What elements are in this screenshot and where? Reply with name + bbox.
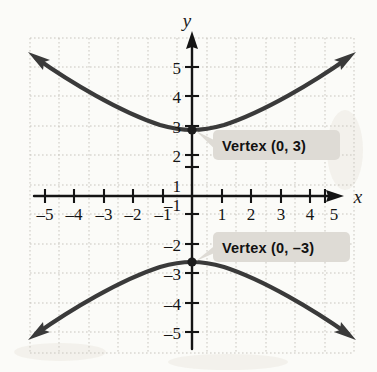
y-tick-label: –5 [163,324,181,343]
y-tick-label: –4 [163,295,182,314]
x-tick-label: –2 [124,205,142,224]
x-tick-label: –4 [65,205,84,224]
x-tick-label: 4 [306,205,315,224]
x-tick-label: 1 [218,205,227,224]
vertex-label-lower: Vertex (0, –3) [222,240,314,256]
x-tick-label: –3 [95,205,113,224]
y-tick-label: 5 [173,59,182,78]
paper-smudge [168,354,288,370]
y-tick-label: –2 [163,236,181,255]
vertex-callout-upper: Vertex (0, 3) [196,130,340,160]
y-axis-label: y [181,10,192,31]
vertex-label-upper: Vertex (0, 3) [222,138,306,154]
y-tick-label: 3 [173,118,182,137]
vertex-marker-upper [187,125,196,134]
coordinate-plane-svg: –5 –4 –3 –2 –1 1 2 3 4 5 5 4 3 2 1 –1 –2… [0,0,377,372]
x-tick-label: 3 [277,205,286,224]
y-tick-label: 2 [173,147,182,166]
paper-smudge [14,343,106,361]
x-axis-label: x [353,186,363,207]
y-tick-label: 1 [173,177,182,196]
x-tick-label: –5 [36,205,54,224]
graph-figure: –5 –4 –3 –2 –1 1 2 3 4 5 5 4 3 2 1 –1 –2… [0,0,377,372]
y-tick-label: 4 [173,88,182,107]
y-tick-label: –1 [163,196,181,215]
vertex-marker-lower [187,257,196,266]
vertex-callout-lower: Vertex (0, –3) [196,232,350,262]
x-tick-label: 5 [330,205,339,224]
y-tick-label: –3 [163,265,181,284]
x-tick-label: 2 [247,205,256,224]
